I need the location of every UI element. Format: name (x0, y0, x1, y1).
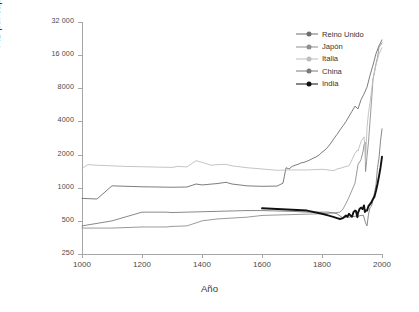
x-tick-label: 1800 (313, 260, 331, 269)
x-tick-mark (202, 254, 203, 258)
legend-item[interactable]: India (296, 78, 364, 90)
x-tick-mark (82, 254, 83, 258)
x-tick-label: 1000 (73, 260, 91, 269)
y-tick-label: 2000 (58, 149, 74, 158)
legend-swatch-icon (296, 29, 318, 39)
y-axis-title: PIB per cápita (1990 USD PPC) (0, 0, 2, 48)
legend: Reino UnidoJapónItaliaChinaIndia (296, 28, 364, 90)
x-tick-label: 1600 (253, 260, 271, 269)
x-tick-mark (142, 254, 143, 258)
legend-swatch-icon (296, 54, 318, 64)
legend-swatch-icon (296, 79, 318, 89)
legend-marker-icon (307, 56, 312, 61)
x-axis-line (82, 254, 382, 255)
x-tick-mark (262, 254, 263, 258)
legend-swatch-icon (296, 66, 318, 76)
legend-item[interactable]: Italia (296, 53, 364, 65)
x-axis-title: Año (0, 283, 419, 294)
y-tick-label: 500 (62, 215, 74, 224)
legend-label: Japón (318, 42, 343, 51)
y-tick-label: 4000 (58, 115, 74, 124)
series-line-india (262, 157, 382, 219)
legend-label: India (318, 79, 338, 88)
y-tick-label: 16 000 (51, 49, 74, 58)
legend-item[interactable]: Reino Unido (296, 28, 364, 40)
y-tick-label: 8000 (58, 82, 74, 91)
legend-marker-icon (307, 69, 312, 74)
legend-label: Italia (318, 54, 338, 63)
y-tick-label: 1000 (58, 182, 74, 191)
x-tick-label: 1400 (193, 260, 211, 269)
chart-figure: 250500100020004000800016 00032 000 10001… (0, 0, 419, 312)
y-tick-label: 250 (62, 248, 74, 257)
legend-label: Reino Unido (318, 30, 364, 39)
x-tick-mark (382, 254, 383, 258)
y-tick-label: 32 000 (51, 16, 74, 25)
y-axis-title-text: PIB per cápita (1990 USD PPC) (0, 0, 2, 48)
series-line-china (82, 129, 382, 226)
x-tick-label: 2000 (373, 260, 391, 269)
legend-marker-icon (307, 32, 312, 37)
x-tick-mark (322, 254, 323, 258)
x-tick-label: 1200 (133, 260, 151, 269)
legend-swatch-icon (296, 42, 318, 52)
legend-item[interactable]: China (296, 65, 364, 77)
legend-marker-icon (307, 44, 312, 49)
legend-item[interactable]: Japón (296, 40, 364, 52)
legend-marker-icon (307, 81, 312, 86)
legend-label: China (318, 67, 342, 76)
